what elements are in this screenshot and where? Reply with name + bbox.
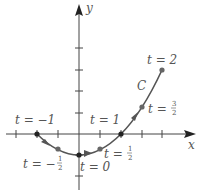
label-t-1: t = 1 (90, 113, 120, 127)
label-t-half: t = (104, 147, 123, 161)
point-t-minus-half (55, 146, 60, 151)
label-t-2: t = 2 (147, 53, 177, 67)
parametric-curve-diagram: y x C t = −1 t = 1 t = 2 t = 0 t = − 1 2… (0, 0, 202, 195)
point-t-half (97, 146, 102, 151)
y-axis-label: y (85, 1, 93, 15)
direction-arrow-icon (84, 150, 92, 157)
point-t-three-halves (139, 104, 144, 109)
frac-num: 1 (128, 145, 132, 153)
frac-den: 2 (172, 109, 176, 117)
label-t-three-halves: t = (148, 102, 167, 116)
frac-den: 2 (58, 164, 62, 172)
point-t-minus-1 (34, 131, 39, 136)
point-t-1 (118, 131, 123, 136)
point-t-2 (159, 67, 164, 72)
x-axis-label: x (188, 138, 195, 152)
label-t-minus-1: t = −1 (15, 113, 55, 127)
frac-den: 2 (128, 154, 132, 162)
curve-label: C (137, 79, 146, 93)
point-t-0 (76, 152, 81, 157)
frac-num: 1 (58, 155, 62, 163)
direction-arrow-icon (131, 112, 138, 121)
label-t-minus-half: t = − (23, 157, 56, 171)
frac-num: 3 (172, 100, 176, 108)
label-t-0: t = 0 (80, 160, 111, 174)
